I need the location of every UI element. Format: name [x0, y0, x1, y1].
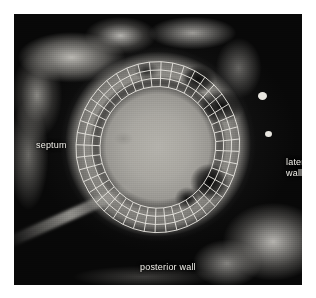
cardiac-scan-image: septum lateral wall posterior wall — [14, 14, 302, 285]
mesh-grid-lines — [76, 62, 239, 233]
figure-container: septum lateral wall posterior wall — [0, 0, 316, 298]
myocardial-annular-mesh — [14, 14, 302, 285]
